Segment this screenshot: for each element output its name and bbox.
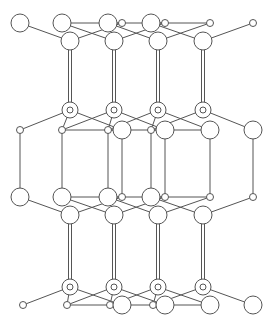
atom-row-d-large bbox=[53, 188, 71, 206]
atom-row-f-large bbox=[113, 296, 131, 314]
atom-row-a-large bbox=[11, 14, 29, 32]
atom-row-f-large bbox=[244, 296, 262, 314]
inner-atom-ring-lower bbox=[111, 284, 117, 290]
atom-row-a-small bbox=[162, 20, 169, 27]
atom-row-d-small bbox=[119, 194, 126, 201]
atom-row-a-small bbox=[250, 20, 257, 27]
atom-row-d-small bbox=[207, 194, 214, 201]
atom-row-a-large bbox=[99, 14, 117, 32]
atom-row-f-large bbox=[156, 296, 174, 314]
atom-row-a-large bbox=[53, 14, 71, 32]
inner-atom-ring-upper bbox=[111, 107, 117, 113]
atom-row-f-large bbox=[201, 296, 219, 314]
atom-row-b-large bbox=[149, 32, 167, 50]
crystal-structure-diagram bbox=[0, 0, 274, 327]
atom-row-c-small bbox=[148, 127, 155, 134]
inner-atom-ring-lower bbox=[155, 284, 161, 290]
inner-atom-ring-lower bbox=[200, 284, 206, 290]
atom-row-e-large bbox=[105, 206, 123, 224]
atom-row-e-large bbox=[61, 206, 79, 224]
atom-row-e-large bbox=[194, 206, 212, 224]
atom-row-d-large bbox=[99, 188, 117, 206]
atom-row-c-large bbox=[244, 121, 262, 139]
atom-row-d-large bbox=[11, 188, 29, 206]
atom-row-f-small bbox=[107, 302, 114, 309]
inner-atom-ring-lower bbox=[67, 284, 73, 290]
inner-atom-ring-upper bbox=[67, 107, 73, 113]
atom-row-c-small bbox=[17, 127, 24, 134]
atom-row-e-large bbox=[149, 206, 167, 224]
atom-row-f-small bbox=[20, 302, 27, 309]
atom-row-b-large bbox=[105, 32, 123, 50]
atom-row-c-large bbox=[156, 121, 174, 139]
atom-row-b-large bbox=[194, 32, 212, 50]
atom-row-b-large bbox=[61, 32, 79, 50]
atom-row-a-large bbox=[142, 14, 160, 32]
atom-row-c-small bbox=[59, 127, 66, 134]
atom-row-a-small bbox=[119, 20, 126, 27]
atom-row-c-small bbox=[105, 127, 112, 134]
atom-row-d-large bbox=[142, 188, 160, 206]
atom-row-f-small bbox=[150, 302, 157, 309]
atom-row-d-small bbox=[250, 194, 257, 201]
atom-row-a-small bbox=[207, 20, 214, 27]
atom-row-f-small bbox=[64, 302, 71, 309]
bonds bbox=[20, 23, 253, 305]
atom-row-d-small bbox=[162, 194, 169, 201]
atom-row-c-large bbox=[113, 121, 131, 139]
inner-atom-ring-upper bbox=[155, 107, 161, 113]
atom-row-c-large bbox=[201, 121, 219, 139]
atoms bbox=[11, 14, 262, 314]
inner-atom-ring-upper bbox=[200, 107, 206, 113]
crystal-structure-figure bbox=[0, 0, 274, 327]
